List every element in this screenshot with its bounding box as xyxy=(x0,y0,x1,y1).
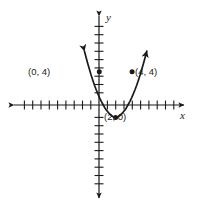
point-label-2-0: (2, 0) xyxy=(104,112,126,122)
point-dot-0-4 xyxy=(97,69,102,74)
point-dot-4-4 xyxy=(130,69,135,74)
x-axis-label: x xyxy=(180,110,185,121)
point-label-0-4: (0, 4) xyxy=(28,67,50,77)
point-label-4-4: (4, 4) xyxy=(135,67,157,77)
coordinate-plane-figure: (0, 4) (4, 4) (2, 0) y x xyxy=(0,0,198,208)
y-axis-label: y xyxy=(106,12,111,23)
graph-canvas xyxy=(0,0,198,208)
y-axis xyxy=(95,16,104,198)
